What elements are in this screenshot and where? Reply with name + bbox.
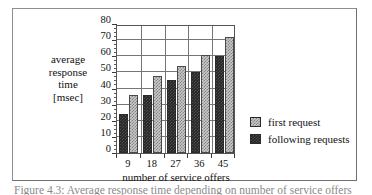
bar-following-requests-36 (191, 72, 200, 153)
plot-area (116, 25, 235, 154)
y-axis-tick-label: 60 (91, 47, 111, 57)
y-axis-tick-labels: 80706050403020100 (89, 25, 111, 154)
x-axis-tick-label: 36 (187, 158, 211, 170)
bar-first-request-18 (153, 76, 162, 153)
legend-item-following-requests: following requests (250, 130, 365, 147)
legend-label-first-request: first request (268, 116, 320, 128)
y-axis-tick-label: 0 (91, 144, 111, 154)
bar-first-request-45 (225, 37, 234, 153)
legend-swatch-first-request (250, 117, 261, 127)
x-axis-tick-label: 9 (116, 158, 140, 170)
bar-following-requests-9 (119, 114, 128, 153)
bar-following-requests-27 (167, 80, 176, 153)
y-axis-tick-label: 20 (91, 112, 111, 122)
bar-first-request-27 (177, 66, 186, 153)
bar-following-requests-45 (215, 56, 224, 153)
x-axis-tick-label: 18 (140, 158, 164, 170)
bar-first-request-9 (129, 95, 138, 153)
legend-swatch-following-requests (250, 134, 261, 144)
x-axis-tick-label: 27 (164, 158, 188, 170)
figure-root: average response time [msec] 80706050403… (0, 0, 372, 195)
figure-frame: average response time [msec] 80706050403… (12, 8, 357, 181)
bars-layer (117, 26, 234, 153)
chart-legend: first request following requests (250, 113, 365, 147)
legend-label-following-requests: following requests (268, 133, 350, 145)
x-axis-title: number of service offers (91, 171, 261, 183)
y-axis-tick-label: 80 (91, 15, 111, 25)
bar-following-requests-18 (143, 95, 152, 153)
y-axis-tick-label: 50 (91, 63, 111, 73)
y-axis-tick-label: 70 (91, 31, 111, 41)
legend-item-first-request: first request (250, 113, 365, 130)
bar-first-request-36 (201, 55, 210, 153)
x-axis-tick-label: 45 (211, 158, 235, 170)
y-axis-tick-label: 10 (91, 128, 111, 138)
figure-caption: Figure 4.3: Average response time depend… (14, 184, 364, 195)
x-axis-tick-labels: 918273645 (116, 158, 235, 171)
y-axis-tick-label: 40 (91, 80, 111, 90)
y-axis-tick-label: 30 (91, 96, 111, 106)
